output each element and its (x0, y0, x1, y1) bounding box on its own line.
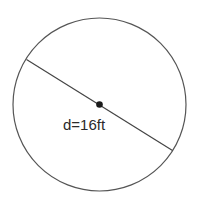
circle-diagram: d=16ft (0, 0, 197, 206)
diameter-label: d=16ft (63, 116, 106, 133)
center-point (96, 101, 103, 108)
